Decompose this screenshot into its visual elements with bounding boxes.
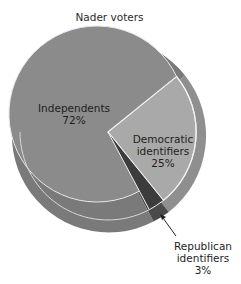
label-democratic-line1: Democratic (128, 133, 198, 145)
label-republican: Republican identifiers 3% (168, 240, 238, 276)
label-republican-line2: identifiers (168, 252, 238, 264)
label-independents: Independents 72% (38, 102, 110, 126)
label-democratic: Democratic identifiers 25% (128, 133, 198, 169)
label-democratic-value: 25% (128, 157, 198, 169)
label-independents-name: Independents (38, 102, 110, 114)
label-democratic-line2: identifiers (128, 145, 198, 157)
arrow-icon (160, 214, 176, 236)
label-republican-value: 3% (168, 264, 238, 276)
label-independents-value: 72% (38, 114, 110, 126)
label-republican-line1: Republican (168, 240, 238, 252)
